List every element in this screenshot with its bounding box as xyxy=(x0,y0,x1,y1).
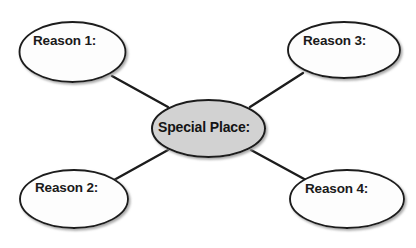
connector-center-reason-3 xyxy=(250,73,303,107)
concept-map-diagram: Reason 1: Reason 3: Reason 2: Reason 4: … xyxy=(0,0,416,248)
node-ellipse-reason-3[interactable] xyxy=(288,22,400,78)
connector-center-reason-4 xyxy=(251,150,306,180)
node-ellipse-reason-4[interactable] xyxy=(290,170,404,228)
node-group xyxy=(20,22,405,228)
node-ellipse-center[interactable] xyxy=(152,100,265,157)
node-ellipse-reason-2[interactable] xyxy=(20,170,128,228)
diagram-canvas-svg xyxy=(0,0,416,248)
connector-center-reason-1 xyxy=(112,76,168,107)
node-ellipse-reason-1[interactable] xyxy=(20,22,126,82)
connector-center-reason-2 xyxy=(114,150,168,180)
